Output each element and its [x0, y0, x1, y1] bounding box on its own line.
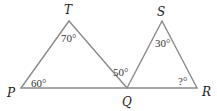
angle-label-T: 70° — [61, 32, 76, 44]
vertex-label-R: R — [201, 85, 211, 99]
geometry-diagram: P T Q S R 70° 60° 50° 30° ?° — [0, 0, 217, 111]
angle-label-R-unknown: ?° — [178, 75, 187, 87]
edge-QS — [127, 21, 162, 88]
angle-label-Q: 50° — [113, 66, 128, 78]
angle-label-S: 30° — [155, 37, 170, 49]
vertex-label-S: S — [157, 5, 165, 19]
angle-label-P: 60° — [31, 77, 46, 89]
vertex-label-T: T — [64, 3, 73, 17]
vertex-label-Q: Q — [122, 95, 132, 109]
vertex-label-P: P — [6, 86, 16, 100]
